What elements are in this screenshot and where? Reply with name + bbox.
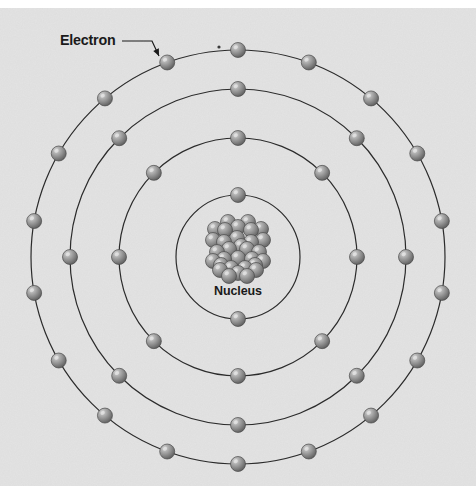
atom-diagram-canvas: Electron Nucleus — [0, 0, 476, 486]
electron-shell4-5 — [434, 214, 449, 229]
nucleon-31 — [222, 269, 237, 284]
electron-shell2-6 — [146, 334, 161, 349]
electron-shell4-1 — [231, 43, 246, 58]
electron-shell2-5 — [231, 369, 246, 384]
electron-shell3-3 — [399, 250, 414, 265]
electron-shell3-2 — [349, 131, 364, 146]
electron-shell3-5 — [231, 418, 246, 433]
atom-diagram-figure: Electron Nucleus — [0, 0, 476, 486]
electron-shell1-1 — [231, 188, 246, 203]
electron-shell4-14 — [27, 285, 42, 300]
electron-shell4-11 — [160, 444, 175, 459]
electron-shell4-10 — [231, 457, 246, 472]
electron-shell2-8 — [146, 165, 161, 180]
electron-shell2-2 — [315, 165, 330, 180]
electron-shell3-7 — [63, 250, 78, 265]
electron-shell4-7 — [410, 353, 425, 368]
electron-shell4-4 — [410, 146, 425, 161]
electron-shell4-9 — [301, 444, 316, 459]
electron-shell4-16 — [51, 146, 66, 161]
electron-shell4-8 — [364, 408, 379, 423]
electron-shell2-4 — [315, 334, 330, 349]
electron-shell3-6 — [112, 368, 127, 383]
electron-shell4-12 — [97, 408, 112, 423]
nucleus-cluster — [206, 215, 271, 284]
electron-shell4-17 — [97, 91, 112, 106]
electron-shell4-3 — [364, 91, 379, 106]
electron-label: Electron — [60, 32, 115, 48]
electron-shell1-2 — [231, 312, 246, 327]
electron-shell4-18 — [160, 55, 175, 70]
electron-shell4-2 — [301, 55, 316, 70]
electron-shell3-8 — [112, 131, 127, 146]
electron-shell3-4 — [349, 368, 364, 383]
nucleon-30 — [240, 269, 255, 284]
electron-shell2-3 — [350, 250, 365, 265]
electron-shell2-7 — [112, 250, 127, 265]
electron-shell2-1 — [231, 131, 246, 146]
electron-shell3-1 — [231, 82, 246, 97]
nucleus-label: Nucleus — [214, 284, 262, 298]
stray-speck — [217, 45, 220, 48]
electron-shell4-15 — [27, 214, 42, 229]
electron-shell4-13 — [51, 353, 66, 368]
electron-shell4-6 — [434, 285, 449, 300]
